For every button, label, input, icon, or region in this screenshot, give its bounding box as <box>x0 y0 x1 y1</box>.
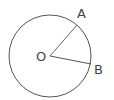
label-point-a: A <box>77 6 86 21</box>
radius-oa <box>50 25 77 56</box>
radius-ob <box>50 56 91 64</box>
label-point-b: B <box>94 62 103 77</box>
label-center-o: O <box>36 49 46 64</box>
circle-diagram: O A B <box>0 0 114 100</box>
